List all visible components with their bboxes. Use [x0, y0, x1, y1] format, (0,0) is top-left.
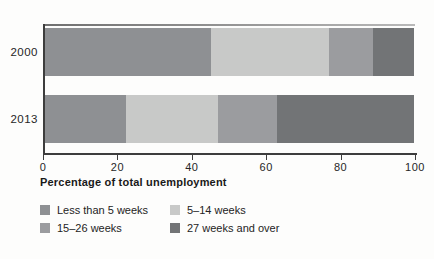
legend-label: 5–14 weeks: [187, 204, 246, 216]
unemployment-duration-chart: 2000 2013 020406080100 Percentage of tot…: [0, 0, 434, 259]
plot-top-border: [43, 24, 415, 26]
category-label-2013: 2013: [4, 113, 38, 125]
tick-label-80: 80: [334, 161, 347, 173]
bar-segment-2013-s0: [45, 95, 126, 143]
legend-item-0: Less than 5 weeks: [40, 203, 170, 216]
tick-label-40: 40: [185, 161, 198, 173]
x-axis-title: Percentage of total unemployment: [40, 176, 227, 188]
bar-segment-2013-s3: [277, 95, 414, 143]
tick-mark-80: [341, 154, 342, 160]
tick-mark-100: [415, 154, 416, 160]
legend-item-3: 27 weeks and over: [170, 221, 279, 234]
bar-row-2013: [45, 95, 414, 143]
legend-swatch-icon: [170, 205, 180, 215]
tick-label-60: 60: [260, 161, 273, 173]
plot-area: [43, 24, 415, 154]
tick-mark-0: [43, 154, 44, 160]
legend-item-1: 5–14 weeks: [170, 203, 279, 216]
bar-segment-2013-s1: [126, 95, 218, 143]
y-axis-line: [43, 24, 45, 155]
legend-swatch-icon: [170, 223, 180, 233]
legend-label: Less than 5 weeks: [57, 204, 148, 216]
tick-mark-60: [266, 154, 267, 160]
x-axis-ticks: 020406080100: [43, 153, 415, 173]
bar-segment-2013-s2: [218, 95, 277, 143]
tick-mark-40: [192, 154, 193, 160]
bar-segment-2000-s2: [329, 28, 373, 76]
legend: Less than 5 weeks5–14 weeks15–26 weeks27…: [40, 203, 279, 234]
legend-item-2: 15–26 weeks: [40, 221, 170, 234]
legend-label: 15–26 weeks: [57, 222, 122, 234]
tick-label-0: 0: [40, 161, 47, 173]
legend-label: 27 weeks and over: [187, 222, 279, 234]
tick-label-20: 20: [111, 161, 124, 173]
legend-swatch-icon: [40, 223, 50, 233]
tick-label-100: 100: [405, 161, 425, 173]
bar-row-2000: [45, 28, 414, 76]
bar-segment-2000-s1: [211, 28, 329, 76]
tick-mark-20: [117, 154, 118, 160]
bar-segment-2000-s3: [373, 28, 414, 76]
legend-swatch-icon: [40, 205, 50, 215]
bar-segment-2000-s0: [45, 28, 211, 76]
category-label-2000: 2000: [4, 46, 38, 58]
